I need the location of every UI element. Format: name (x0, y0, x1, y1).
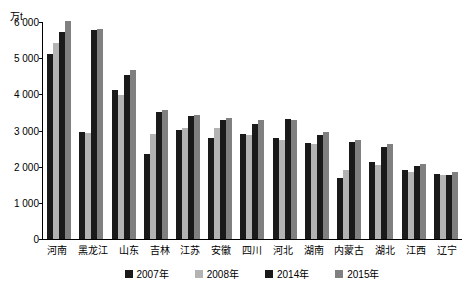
bar-group (402, 22, 426, 239)
legend-swatch (125, 270, 133, 278)
bar (452, 172, 458, 239)
y-tick-label: 5 000 (14, 53, 39, 64)
chart-legend: 2007年2008年2014年2015年 (42, 266, 462, 281)
y-tick-mark (39, 239, 43, 240)
bar-group (208, 22, 232, 239)
bar (65, 21, 71, 239)
x-tick-label: 内蒙古 (334, 242, 364, 257)
legend-label: 2007年 (137, 266, 169, 281)
bar-group (47, 22, 71, 239)
y-tick-label: 1 000 (14, 197, 39, 208)
legend-swatch (195, 270, 203, 278)
bar (194, 115, 200, 239)
x-tick-label: 河南 (47, 242, 67, 257)
bar-chart: 万t 01 0002 0003 0004 0005 0006 000 河南黑龙江… (0, 0, 475, 299)
bar (97, 29, 103, 239)
bar (291, 120, 297, 239)
x-tick-label: 山东 (119, 242, 139, 257)
y-tick-label: 2 000 (14, 161, 39, 172)
x-tick-label: 江苏 (180, 242, 200, 257)
legend-label: 2015年 (347, 266, 379, 281)
x-tick-label: 安徽 (211, 242, 231, 257)
bar (130, 70, 136, 239)
bar (258, 120, 264, 239)
bar (226, 118, 232, 239)
x-tick-label: 四川 (242, 242, 262, 257)
legend-item: 2008年 (195, 266, 239, 281)
x-tick-label: 河北 (273, 242, 293, 257)
legend-item: 2014年 (265, 266, 309, 281)
bar (420, 164, 426, 239)
x-tick-label: 吉林 (150, 242, 170, 257)
legend-label: 2008年 (207, 266, 239, 281)
x-tick-label: 辽宁 (437, 242, 457, 257)
bar-group (434, 22, 458, 239)
y-tick-label: 4 000 (14, 89, 39, 100)
y-tick-label: 6 000 (14, 17, 39, 28)
x-tick-label: 黑龙江 (78, 242, 108, 257)
plot-area: 01 0002 0003 0004 0005 0006 000 (42, 22, 462, 240)
bar-group (305, 22, 329, 239)
bar-group (337, 22, 361, 239)
bar (355, 140, 361, 239)
bar-group (176, 22, 200, 239)
bar (162, 110, 168, 239)
bar-group (79, 22, 103, 239)
x-tick-label: 湖北 (375, 242, 395, 257)
x-tick-label: 湖南 (304, 242, 324, 257)
legend-item: 2007年 (125, 266, 169, 281)
y-tick-label: 3 000 (14, 125, 39, 136)
legend-item: 2015年 (335, 266, 379, 281)
legend-swatch (335, 270, 343, 278)
bar-group (240, 22, 264, 239)
bar-group (369, 22, 393, 239)
bar (387, 144, 393, 239)
legend-swatch (265, 270, 273, 278)
bar-group (112, 22, 136, 239)
bar-group (144, 22, 168, 239)
bar-group (273, 22, 297, 239)
x-axis-labels: 河南黑龙江山东吉林江苏安徽四川河北湖南内蒙古湖北江西辽宁 (42, 242, 462, 260)
x-tick-label: 江西 (406, 242, 426, 257)
bar (323, 132, 329, 239)
bar-groups (43, 22, 462, 239)
legend-label: 2014年 (277, 266, 309, 281)
